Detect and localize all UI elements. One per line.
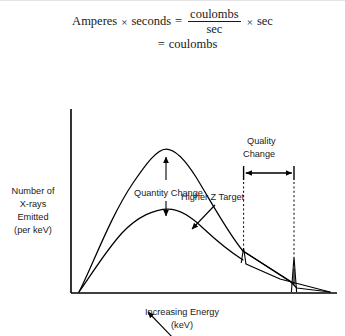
equation-result: coulombs bbox=[169, 38, 218, 52]
fraction-numerator: coulombs bbox=[188, 7, 241, 21]
equals-sign-1: = bbox=[175, 15, 182, 29]
y-axis-label-line1: Number of bbox=[12, 186, 55, 196]
equation-line-2: = coulombs bbox=[0, 38, 345, 52]
multiply-sign-2: × bbox=[247, 16, 253, 28]
x-axis-label-line1: Increasing Energy bbox=[145, 307, 219, 317]
quantity-change-label: Quantity Change bbox=[134, 188, 203, 198]
fraction-denominator: sec bbox=[204, 22, 224, 36]
higher-z-target-leader bbox=[192, 205, 215, 229]
equation-line-1: Amperes × seconds = coulombs sec × sec bbox=[0, 7, 345, 37]
quality-change-label-line2: Change bbox=[243, 149, 275, 159]
curve-higher-z-tail bbox=[243, 251, 330, 292]
x-axis-label: Increasing Energy (keV) bbox=[145, 307, 219, 330]
quality-change-label-line1: Quality bbox=[247, 136, 276, 146]
curve-lower-z-path bbox=[79, 209, 243, 292]
xray-spectrum-figure: Amperes × seconds = coulombs sec × sec =… bbox=[0, 0, 345, 336]
equation-seconds: seconds bbox=[131, 15, 171, 29]
fraction-coulombs-per-sec: coulombs sec bbox=[188, 7, 241, 37]
curve-higher-z bbox=[79, 149, 330, 292]
y-axis-label-line2: X-rays bbox=[20, 199, 47, 209]
y-axis-label: Number of X-rays Emitted (per keV) bbox=[12, 186, 55, 235]
annotation-quality-change: Quality Change bbox=[243, 136, 294, 257]
curve-lower-z-tail bbox=[246, 264, 330, 292]
equation-sec: sec bbox=[257, 15, 273, 29]
multiply-sign-1: × bbox=[121, 16, 127, 28]
equation-amperes: Amperes bbox=[72, 15, 117, 29]
equals-sign-2: = bbox=[158, 38, 165, 52]
annotation-quantity-change: Quantity Change bbox=[134, 157, 203, 216]
y-axis-label-line3: Emitted bbox=[17, 212, 48, 222]
equation-block: Amperes × seconds = coulombs sec × sec =… bbox=[0, 7, 345, 52]
x-axis-label-line2: (keV) bbox=[171, 320, 193, 330]
y-axis-label-line4: (per keV) bbox=[14, 225, 52, 235]
spectrum-plot: Higher Z Target Lower Z Target Quantity … bbox=[0, 85, 345, 336]
